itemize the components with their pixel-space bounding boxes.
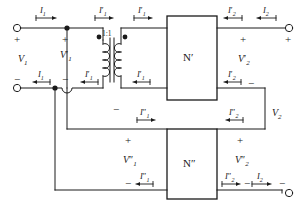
sign-v2p-plus-right: + [285, 34, 291, 45]
current-label-i1pp-bottom: I″1 [140, 172, 149, 183]
voltage-label-v2-double-prime: V″2 [235, 155, 249, 168]
terminal-input-bottom [13, 84, 20, 91]
sign-mid-minus: − [113, 104, 119, 115]
terminal-output-bottom [285, 189, 292, 196]
terminal-output-top [285, 24, 292, 31]
terminal-input-top [13, 24, 20, 31]
transformer-polarity-dot-primary [97, 35, 102, 40]
voltage-label-v2-prime: V′2 [238, 54, 250, 67]
current-label-i1-top: I1 [40, 6, 46, 17]
current-label-i2pp-mid: I″2 [229, 108, 238, 119]
wire-hop-crossing [55, 88, 103, 93]
current-label-i1p-bottom: I′1 [85, 70, 93, 81]
junction-dot-bottom [52, 85, 57, 90]
circuit-diagram: N′ N″ 1:1 V1 V′1 V″1 V2 V′2 V″2 + − + − … [0, 0, 303, 212]
sign-v1p-minus: − [62, 74, 68, 85]
sign-v2p-minus: − [248, 78, 254, 89]
block-label-n-prime: N′ [183, 52, 193, 63]
current-label-i2p-lower: I′2 [228, 70, 236, 81]
sign-v1pp-plus: + [125, 135, 131, 146]
current-label-i1p-top2: I′1 [138, 6, 146, 17]
current-label-i1p-top: I′1 [99, 6, 107, 17]
sign-v2p-plus-left: + [240, 34, 246, 45]
sign-input-plus: + [14, 34, 20, 45]
sign-v1p-plus: + [62, 34, 68, 45]
transformer-polarity-dot-secondary [123, 35, 128, 40]
current-label-i2pp-bottom: I″2 [225, 172, 234, 183]
current-label-i1pp-mid: I″1 [140, 108, 149, 119]
current-label-i1-bottom: I1 [38, 70, 44, 81]
voltage-label-v2: V2 [272, 108, 282, 121]
arrow-i1-top [36, 16, 56, 21]
sign-v2pp-plus: + [237, 135, 243, 146]
transformer-ratio-label: 1:1 [102, 30, 112, 38]
current-label-i2p-top: I′2 [228, 6, 236, 17]
voltage-label-v1-prime: V′1 [60, 50, 72, 63]
current-label-i2-bottom: I2 [257, 172, 263, 183]
current-label-i1p-bottom2: I′1 [137, 70, 145, 81]
sign-v2pp-minus-left: − [244, 178, 250, 189]
sign-v2pp-minus-right: − [279, 178, 285, 189]
sign-input-minus: − [14, 74, 20, 85]
current-label-i2-top: I2 [263, 6, 269, 17]
junction-dot-top [64, 25, 69, 30]
voltage-label-v1-double-prime: V″1 [123, 155, 137, 168]
voltage-label-v1: V1 [18, 54, 28, 67]
sign-v1pp-minus: − [125, 178, 131, 189]
block-label-n-double-prime: N″ [183, 158, 196, 169]
